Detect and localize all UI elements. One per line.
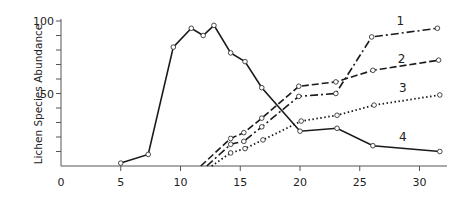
data-point-marker — [435, 26, 440, 31]
series-line-4 — [121, 25, 440, 163]
lichen-abundance-chart: 05101520253050100 1234 Lichen Species Ab… — [0, 0, 457, 205]
data-point-marker — [189, 26, 194, 31]
data-point-marker — [228, 136, 233, 141]
data-point-marker — [335, 126, 340, 131]
data-point-marker — [371, 68, 376, 73]
data-point-marker — [436, 58, 441, 63]
data-point-marker — [228, 51, 233, 56]
data-point-marker — [369, 35, 374, 40]
series-label-4: 4 — [399, 130, 407, 144]
data-point-marker — [212, 23, 217, 28]
x-tick-label: 0 — [58, 176, 65, 189]
data-point-marker — [201, 33, 206, 38]
data-point-marker — [297, 84, 302, 89]
axes: 05101520253050100 — [33, 15, 447, 189]
data-point-marker — [298, 129, 303, 134]
data-point-marker — [228, 142, 233, 147]
series-label-2: 2 — [398, 52, 406, 66]
data-point-marker — [438, 149, 443, 154]
x-tick-label: 5 — [117, 176, 124, 189]
data-point-marker — [228, 151, 233, 156]
data-point-marker — [243, 146, 248, 151]
data-point-marker — [118, 161, 123, 166]
data-point-marker — [299, 119, 304, 124]
data-point-marker — [259, 85, 264, 90]
data-point-marker — [371, 143, 376, 148]
data-point-marker — [334, 80, 339, 85]
series-label-1: 1 — [397, 14, 405, 28]
series-label-3: 3 — [399, 81, 407, 95]
x-tick-label: 30 — [413, 176, 427, 189]
data-point-marker — [171, 45, 176, 50]
data-point-marker — [297, 94, 302, 99]
series-group — [118, 23, 442, 166]
data-point-marker — [259, 125, 264, 130]
data-point-marker — [242, 130, 247, 135]
series-line-1 — [207, 28, 438, 166]
data-point-marker — [372, 103, 377, 108]
data-point-marker — [261, 138, 266, 143]
y-axis-label: Lichen Species Abundance — [32, 24, 44, 165]
x-tick-label: 10 — [174, 176, 188, 189]
x-tick-label: 25 — [353, 176, 367, 189]
data-point-marker — [438, 93, 443, 98]
x-tick-label: 15 — [233, 176, 247, 189]
data-point-marker — [259, 116, 264, 121]
data-point-marker — [334, 91, 339, 96]
x-tick-label: 20 — [293, 176, 307, 189]
data-point-marker — [146, 152, 151, 157]
data-point-marker — [243, 59, 248, 64]
data-point-marker — [335, 113, 340, 118]
series-line-2 — [201, 60, 439, 166]
data-point-marker — [242, 139, 247, 144]
